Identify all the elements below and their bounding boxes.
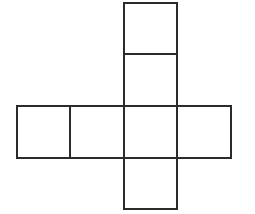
face-center bbox=[124, 106, 177, 158]
face-top-2 bbox=[124, 54, 177, 106]
face-top-1 bbox=[124, 3, 177, 54]
cube-net-diagram bbox=[0, 0, 255, 214]
cube-net-faces bbox=[17, 3, 231, 209]
face-bottom bbox=[124, 158, 177, 209]
face-left-1 bbox=[17, 106, 70, 158]
face-left-2 bbox=[70, 106, 124, 158]
face-right bbox=[177, 106, 231, 158]
